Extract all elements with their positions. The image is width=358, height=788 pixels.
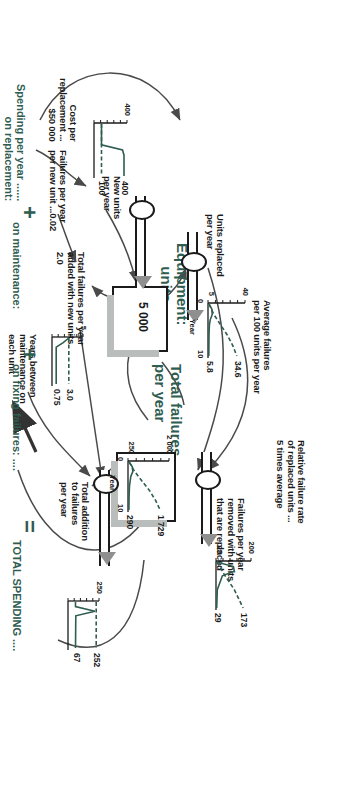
average-failures-per-100-units-chart-xtick-1: 10 bbox=[196, 350, 205, 358]
average-failures-per-100-units-chart-ytick-1: 5 bbox=[207, 276, 216, 296]
years-between-maintenance-chart-endlabel-scenario-a: 3.0 bbox=[65, 389, 75, 401]
years-between-maintenance-chart: 53.00.75 bbox=[48, 332, 86, 388]
failures-removed-with-units-replaced-chart: 2002517329 bbox=[212, 556, 254, 612]
bottom-label-spending-on-replacement: Spending per year ...... on replacement: bbox=[3, 84, 26, 201]
average-failures-per-100-units-chart-ytick-0: 40 bbox=[241, 276, 250, 296]
average-failures-per-100-units-chart: 405010Year34.65.8 bbox=[204, 298, 248, 360]
bottom-operator-total: = bbox=[18, 520, 40, 533]
total-failures-per-year-chart-ytick-0: 2 000 bbox=[165, 434, 174, 454]
stock-shadow-bottom bbox=[107, 295, 114, 357]
total-failures-per-year-chart-ytick-1: 250 bbox=[127, 434, 136, 454]
total-failures-per-year-chart-xlabel: Year bbox=[108, 475, 117, 491]
years-between-maintenance-chart-ytick-0: 5 bbox=[79, 310, 88, 330]
average-failures-per-100-units-chart-endlabel-scenario-b: 5.8 bbox=[205, 361, 215, 373]
total-addition-to-failures-per-year-chart: 25025267 bbox=[64, 596, 102, 652]
total-failures-per-year-chart-xtick-0: 0 bbox=[116, 457, 125, 461]
flow-arrow-new-units bbox=[134, 276, 152, 289]
flow-valve-units-replaced[interactable] bbox=[181, 252, 207, 272]
flow-pipe-units-replaced bbox=[187, 232, 198, 320]
flow-valve-failures-removed[interactable] bbox=[195, 470, 221, 490]
flow-label-total-addition: Total addition to failures per year bbox=[59, 482, 90, 541]
new-units-per-year-chart-endlabel-scenario-b: 100 bbox=[98, 181, 108, 195]
total-addition-to-failures-per-year-chart-endlabel-scenario-a: 252 bbox=[92, 653, 102, 667]
average-failures-per-100-units-chart-xtick-0: 0 bbox=[196, 299, 205, 303]
total-failures-per-year-chart-endlabel-scenario-b: 290 bbox=[125, 515, 135, 529]
new-units-per-year-chart-ytick-0: 400 bbox=[123, 96, 132, 116]
flow-valve-new-units[interactable] bbox=[129, 200, 155, 220]
flow-arrow-total-addition bbox=[98, 552, 116, 565]
failures-removed-with-units-replaced-chart-ytick-1: 25 bbox=[215, 534, 224, 554]
total-addition-to-failures-per-year-chart-endlabel-scenario-b: 67 bbox=[72, 653, 82, 662]
years-between-maintenance-chart-endlabel-scenario-b: 0.75 bbox=[52, 389, 62, 406]
failures-removed-with-units-replaced-chart-endlabel-scenario-b: 29 bbox=[213, 613, 223, 622]
total-addition-to-failures-per-year-chart-ytick-0: 250 bbox=[95, 574, 104, 594]
stock-shadow-bottom-2 bbox=[111, 461, 118, 527]
bottom-label-on-maintenance: on maintenance: bbox=[10, 222, 22, 309]
bottom-label-on-fixing-failures: on fixing failures: .... bbox=[10, 364, 22, 471]
variable-label-relative-failure-rate: Relative failure rate of replaced units … bbox=[275, 440, 306, 523]
bottom-operator-maintenance: + bbox=[18, 206, 40, 219]
failures-removed-with-units-replaced-chart-ytick-0: 200 bbox=[247, 534, 256, 554]
flow-label-units-replaced: Units replaced per year bbox=[205, 214, 226, 277]
variable-label-cost-per-replacement: Cost per replacement ... $50 000 bbox=[47, 78, 78, 142]
average-failures-per-100-units-chart-endlabel-scenario-a: 34.6 bbox=[233, 361, 243, 378]
failures-removed-with-units-replaced-chart-endlabel-scenario-a: 173 bbox=[239, 613, 249, 627]
total-failures-per-year-chart-xtick-1: 10 bbox=[116, 504, 125, 512]
total-failures-per-year-chart: 2 000250010Year1 729290 bbox=[124, 456, 172, 514]
variable-label-failures-per-new-unit: Failures per year per new unit ...0.02 bbox=[48, 150, 69, 231]
variable-label-average-failures: Average failures per 100 units per year bbox=[252, 300, 273, 394]
average-failures-per-100-units-chart-xlabel: Year bbox=[188, 319, 197, 335]
new-units-per-year-chart-endlabel-scenario-a: 400 bbox=[120, 181, 130, 195]
bottom-label-total-spending: TOTAL SPENDING .... bbox=[10, 540, 22, 651]
bottom-operator-fixing: + bbox=[18, 348, 40, 361]
total-failures-per-year-chart-endlabel-scenario-a: 1 729 bbox=[156, 515, 166, 536]
stock-shadow-right bbox=[107, 350, 159, 357]
new-units-per-year-chart: 400400100 bbox=[90, 118, 130, 180]
diagram-frame: Equipment: units 5 000 New units per yea… bbox=[0, 0, 358, 788]
diagram-canvas: Equipment: units 5 000 New units per yea… bbox=[0, 0, 358, 788]
stock-value-equipment-units: 5 000 bbox=[136, 292, 150, 342]
flow-pipe-failures-removed bbox=[201, 452, 212, 544]
